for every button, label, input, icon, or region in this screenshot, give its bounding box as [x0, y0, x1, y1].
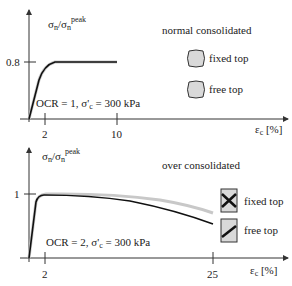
bottom-legend-fixed-top: fixed top	[244, 195, 284, 207]
single-shear-band-specimen-icon	[221, 219, 237, 242]
top-y-axis-label: σn/σnpeak	[48, 15, 86, 32]
bottom-legend-free-top: free top	[244, 224, 278, 236]
top-x-axis-label: εc [%]	[255, 123, 282, 137]
bottom-curve-fixed-top	[29, 194, 213, 258]
top-condition-label: OCR = 1, σ'c = 300 kPa	[36, 97, 140, 111]
bottom-chart-title: over consolidated	[162, 159, 240, 171]
barrel-specimen-icon	[188, 50, 205, 67]
top-legend-free-top: free top	[209, 83, 243, 95]
diagram-canvas: 0.8 2 10 σn/σnpeak εc [%] OCR = 1, σ'c =…	[0, 0, 292, 286]
bottom-y-axis-label: σn/σnpeak	[42, 147, 80, 164]
bottom-ytick-label: 1	[14, 188, 20, 200]
bottom-xtick-label-25: 25	[207, 268, 219, 280]
barrel-specimen-icon	[188, 81, 205, 98]
top-curve-fixed-top	[29, 62, 117, 119]
bottom-legend: fixed top free top	[221, 189, 284, 242]
top-chart-title: normal consolidated	[162, 24, 252, 36]
top-xtick-label-2: 2	[42, 128, 48, 140]
top-legend: fixed top free top	[188, 50, 249, 98]
bottom-x-axis-label: εc [%]	[250, 264, 277, 278]
bottom-xtick-label-2: 2	[42, 268, 48, 280]
top-xtick-label-10: 10	[111, 128, 123, 140]
top-ytick-label: 0.8	[6, 56, 20, 68]
bottom-chart: 1 2 25 σn/σnpeak εc [%] OCR = 2, σ'c = 3…	[14, 147, 288, 280]
x-shear-band-specimen-icon	[221, 189, 237, 212]
top-chart: 0.8 2 10 σn/σnpeak εc [%] OCR = 1, σ'c =…	[6, 10, 288, 140]
bottom-condition-label: OCR = 2, σ'c = 300 kPa	[46, 236, 150, 250]
top-legend-fixed-top: fixed top	[209, 52, 249, 64]
